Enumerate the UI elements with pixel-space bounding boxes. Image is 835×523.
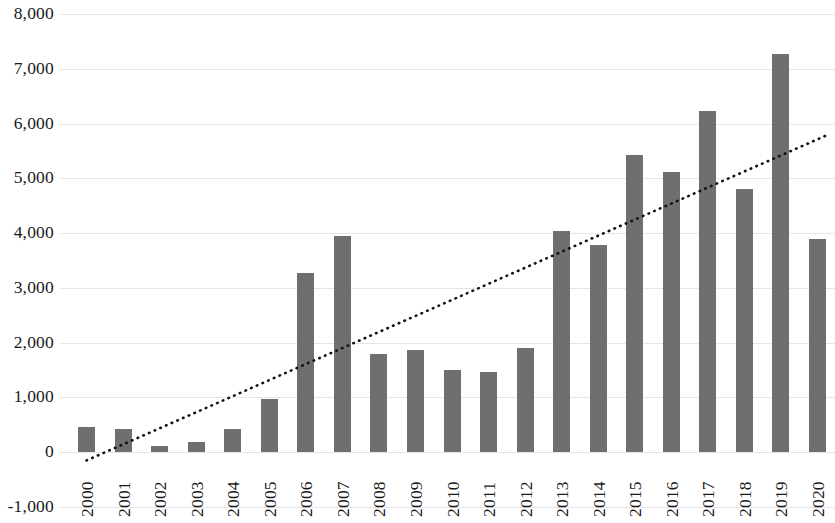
x-tick-label-2017: 2017	[700, 455, 716, 517]
y-tick-label: 1,000	[0, 388, 54, 406]
y-tick-label: 8,000	[0, 5, 54, 23]
bar-2010	[444, 370, 461, 452]
gridline-0	[60, 452, 835, 453]
x-tick-label-2018: 2018	[737, 455, 753, 517]
bar-2011	[480, 372, 497, 452]
gridline-5000	[60, 178, 835, 179]
x-tick-label-2011: 2011	[481, 455, 497, 517]
bar-2019	[772, 54, 789, 452]
bar-2003	[188, 442, 205, 452]
gridline-2000	[60, 343, 835, 344]
chart-container: -1,00001,0002,0003,0004,0005,0006,0007,0…	[0, 0, 835, 523]
x-tick-label-2006: 2006	[298, 455, 314, 517]
x-tick-label-2020: 2020	[810, 455, 826, 517]
x-tick-label-2001: 2001	[116, 455, 132, 517]
x-tick-label-2005: 2005	[262, 455, 278, 517]
gridline-8000	[60, 14, 835, 15]
y-tick-label: 6,000	[0, 115, 54, 133]
bar-2016	[663, 172, 680, 452]
bar-2005	[261, 399, 278, 453]
bar-2014	[590, 245, 607, 452]
bar-2017	[699, 111, 716, 452]
x-tick-label-2008: 2008	[371, 455, 387, 517]
bar-2020	[809, 239, 826, 453]
bar-2004	[224, 429, 241, 452]
x-tick-label-2003: 2003	[189, 455, 205, 517]
y-tick-label: 7,000	[0, 60, 54, 78]
x-tick-label-2012: 2012	[518, 455, 534, 517]
gridline-3000	[60, 288, 835, 289]
bar-2001	[115, 429, 132, 453]
y-tick-label: -1,000	[0, 498, 54, 516]
bar-2006	[297, 273, 314, 453]
bar-2018	[736, 189, 753, 452]
x-tick-label-2019: 2019	[773, 455, 789, 517]
y-tick-label: 2,000	[0, 334, 54, 352]
x-tick-label-2016: 2016	[664, 455, 680, 517]
x-tick-label-2004: 2004	[225, 455, 241, 517]
bar-2012	[517, 348, 534, 452]
y-tick-label: 3,000	[0, 279, 54, 297]
y-tick-label: 0	[0, 443, 54, 461]
x-tick-label-2010: 2010	[445, 455, 461, 517]
bar-2015	[626, 155, 643, 452]
gridline-6000	[60, 124, 835, 125]
x-tick-label-2014: 2014	[591, 455, 607, 517]
bar-2013	[553, 231, 570, 452]
x-tick-label-2002: 2002	[152, 455, 168, 517]
x-tick-label-2009: 2009	[408, 455, 424, 517]
bar-2009	[407, 350, 424, 452]
x-tick-label-2007: 2007	[335, 455, 351, 517]
bar-2008	[370, 354, 387, 452]
x-axis: 2000200120022003200420052006200720082009…	[60, 455, 835, 523]
bar-2002	[151, 446, 168, 452]
y-tick-label: 4,000	[0, 224, 54, 242]
plot-area	[60, 0, 835, 507]
x-tick-label-2000: 2000	[79, 455, 95, 517]
gridline-7000	[60, 69, 835, 70]
y-tick-label: 5,000	[0, 169, 54, 187]
bar-2007	[334, 236, 351, 452]
gridline-4000	[60, 233, 835, 234]
x-tick-label-2015: 2015	[627, 455, 643, 517]
y-axis: -1,00001,0002,0003,0004,0005,0006,0007,0…	[0, 0, 54, 507]
bar-2000	[78, 427, 95, 452]
x-tick-label-2013: 2013	[554, 455, 570, 517]
